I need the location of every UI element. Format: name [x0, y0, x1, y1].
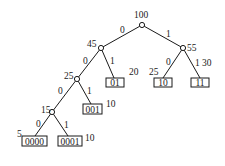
leaf-0001-code: 0001 [61, 137, 80, 147]
leaf-10-weight: 25 [149, 67, 159, 77]
huffman-tree-diagram: 100 45 55 25 15 0 1 0 1 0 1 0 1 0 1 01 1… [0, 0, 225, 166]
node-root-weight: 100 [134, 10, 149, 20]
edge-label-25-1: 1 [87, 86, 92, 96]
node-45-weight: 45 [87, 39, 97, 49]
edge-label-45-0: 0 [83, 56, 88, 66]
edge-root-55 [142, 25, 183, 48]
edge-label-root-1: 1 [166, 29, 171, 39]
edge-label-45-1: 1 [110, 56, 115, 66]
edge-label-15-0: 0 [36, 119, 41, 129]
node-55-circle [180, 45, 185, 50]
node-15-weight: 15 [41, 105, 51, 115]
edge-label-25-0: 0 [58, 86, 63, 96]
node-25-weight: 25 [64, 71, 74, 81]
leaf-01-weight: 20 [129, 67, 139, 77]
edge-label-55-0: 0 [166, 57, 171, 67]
node-root-circle [139, 22, 144, 27]
node-45-circle [98, 45, 103, 50]
edge-45-25 [77, 48, 101, 79]
tree-svg: 100 45 55 25 15 0 1 0 1 0 1 0 1 0 1 01 1… [0, 0, 225, 166]
leaf-11-weight: 30 [202, 58, 212, 68]
edge-25-15 [52, 79, 77, 112]
edge-label-55-1: 1 [195, 58, 200, 68]
node-55-weight: 55 [187, 43, 197, 53]
edge-label-15-1: 1 [64, 120, 69, 130]
leaf-0000-weight: 5 [17, 129, 22, 139]
leaf-001-weight: 10 [106, 99, 116, 109]
leaf-01-code: 01 [110, 78, 120, 88]
leaf-11-code: 11 [195, 78, 204, 88]
node-25-circle [74, 76, 79, 81]
leaf-0000-code: 0000 [25, 137, 44, 147]
leaf-0001-weight: 10 [85, 133, 95, 143]
leaf-001-code: 001 [85, 105, 100, 115]
leaf-10-code: 10 [158, 78, 168, 88]
edge-label-root-0: 0 [120, 25, 125, 35]
